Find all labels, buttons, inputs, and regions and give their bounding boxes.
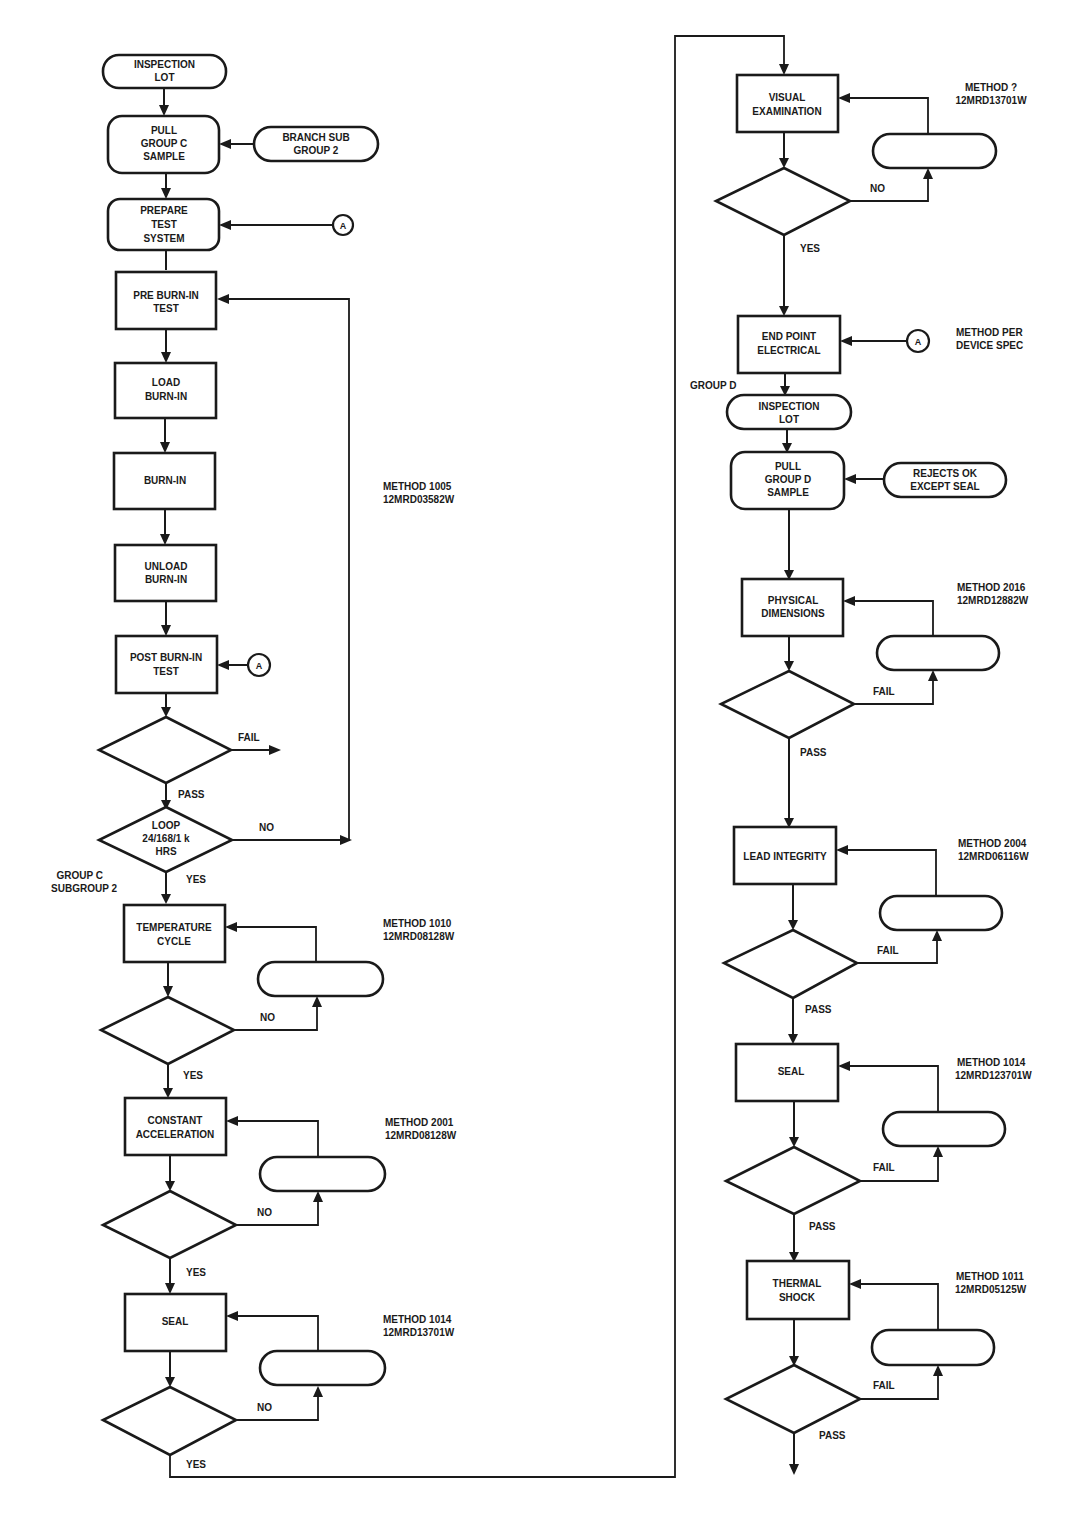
- connector-a-circle: A: [907, 330, 929, 352]
- arrow-left-icon: [838, 93, 850, 103]
- inspection-lot-terminal: INSPECTION LOT: [103, 55, 226, 88]
- pass-label: PASS: [800, 747, 827, 758]
- arrow-up-icon: [933, 1365, 943, 1376]
- connector-a-circle: A: [333, 215, 353, 235]
- no-label: NO: [257, 1207, 272, 1218]
- arrow-down-icon: [161, 894, 171, 904]
- no-label: NO: [257, 1402, 272, 1413]
- svg-text:THERMAL: THERMAL: [773, 1278, 822, 1289]
- rework-terminal: [877, 636, 999, 670]
- rework-terminal: [260, 1157, 385, 1191]
- prepare-line3: SYSTEM: [143, 233, 184, 244]
- rework-terminal: [883, 1112, 1005, 1146]
- phys-dim-method-line1: METHOD 2016: [957, 582, 1026, 593]
- load-burn-in-line1: LOAD: [152, 377, 180, 388]
- pass-label: PASS: [819, 1430, 846, 1441]
- branch-sub-group-line1: BRANCH SUB: [282, 132, 349, 143]
- arrow-down-icon: [788, 1034, 798, 1044]
- fail-label: FAIL: [238, 732, 260, 743]
- thermal-shock-method-line2: 12MRD05125W: [955, 1284, 1027, 1295]
- arrow-left-icon: [219, 139, 231, 149]
- burn-in-method-line1: METHOD 1005: [383, 481, 452, 492]
- pull-group-d-sample-box: PULL GROUP D SAMPLE: [731, 452, 844, 509]
- arrow-down-icon: [161, 352, 171, 363]
- arrow-up-icon: [923, 168, 933, 179]
- arrow-left-icon: [217, 294, 229, 304]
- inspection-lot-line2: LOT: [155, 72, 175, 83]
- seal-method-line1: METHOD 1014: [383, 1314, 452, 1325]
- yes-label: YES: [800, 243, 820, 254]
- fail-label: FAIL: [873, 1380, 895, 1391]
- visual-method-line2: 12MRD13701W: [955, 95, 1027, 106]
- svg-text:REJECTS OK: REJECTS OK: [913, 468, 978, 479]
- thermal-shock-decision: [726, 1365, 860, 1433]
- prepare-line2: TEST: [151, 219, 177, 230]
- phys-dim-method-line2: 12MRD12882W: [957, 595, 1029, 606]
- arrow-left-icon: [843, 596, 855, 606]
- unload-burn-in-box: UNLOAD BURN-IN: [115, 545, 216, 601]
- svg-text:ACCELERATION: ACCELERATION: [136, 1129, 215, 1140]
- unload-burn-in-line2: BURN-IN: [145, 574, 187, 585]
- svg-text:CYCLE: CYCLE: [157, 936, 191, 947]
- post-burn-in-decision: [99, 717, 231, 783]
- loop-yes-label: YES: [186, 874, 206, 885]
- svg-text:LOT: LOT: [779, 414, 799, 425]
- end-point-electrical-box: END POINT ELECTRICAL: [738, 316, 840, 373]
- svg-text:A: A: [340, 221, 347, 231]
- loop-no-label: NO: [259, 822, 274, 833]
- arrow-up-icon: [933, 1146, 943, 1157]
- group-c-label-line1: GROUP C: [57, 870, 104, 881]
- yes-label: YES: [186, 1267, 206, 1278]
- arrow-left-icon: [226, 1311, 238, 1321]
- fail-label: FAIL: [873, 1162, 895, 1173]
- group-c-label-line2: SUBGROUP 2: [51, 883, 117, 894]
- lead-int-method-line1: METHOD 2004: [958, 838, 1027, 849]
- svg-text:A: A: [915, 337, 922, 347]
- flowchart-canvas: INSPECTION LOT PULL GROUP C SAMPLE BRANC…: [0, 0, 1078, 1534]
- thermal-shock-box: THERMAL SHOCK: [747, 1261, 849, 1319]
- lead-int-decision: [724, 930, 857, 998]
- arrow-down-icon: [165, 1181, 175, 1191]
- svg-text:SEAL: SEAL: [778, 1066, 805, 1077]
- svg-text:EXCEPT SEAL: EXCEPT SEAL: [910, 481, 979, 492]
- arrow-left-icon: [219, 220, 231, 230]
- temp-cycle-method-line1: METHOD 1010: [383, 918, 452, 929]
- arrow-left-icon: [844, 474, 856, 484]
- group-d-label: GROUP D: [690, 380, 737, 391]
- pass-label: PASS: [178, 789, 205, 800]
- seal-box-right: SEAL: [736, 1044, 838, 1101]
- pull-group-c-line2: GROUP C: [141, 138, 188, 149]
- arrow-up-icon: [313, 1386, 323, 1397]
- svg-text:LOOP: LOOP: [152, 820, 181, 831]
- loop-back-connector: [220, 299, 349, 840]
- temp-cycle-decision: [101, 997, 234, 1064]
- arrow-up-icon: [932, 930, 942, 941]
- svg-text:END POINT: END POINT: [762, 331, 816, 342]
- constant-acceleration-box: CONSTANT ACCELERATION: [125, 1098, 226, 1155]
- load-burn-in-line2: BURN-IN: [145, 391, 187, 402]
- arrow-left-icon: [836, 845, 848, 855]
- arrow-right-icon: [340, 835, 352, 845]
- arrow-down-icon: [779, 158, 789, 168]
- phys-dim-decision: [721, 671, 854, 738]
- seal-right-decision: [726, 1147, 860, 1214]
- pass-label: PASS: [809, 1221, 836, 1232]
- arrow-down-icon: [789, 1464, 799, 1475]
- rework-terminal: [872, 1330, 994, 1365]
- prepare-line1: PREPARE: [140, 205, 188, 216]
- post-burn-in-line2: TEST: [153, 666, 179, 677]
- arrow-left-icon: [840, 336, 852, 346]
- physical-dimensions-box: PHYSICAL DIMENSIONS: [742, 579, 843, 636]
- arrow-down-icon: [165, 1377, 175, 1387]
- post-burn-in-test-box: POST BURN-IN TEST: [116, 636, 217, 693]
- arrow-down-icon: [159, 105, 169, 116]
- prepare-test-system-box: PREPARE TEST SYSTEM: [108, 199, 219, 250]
- temp-cycle-method-line2: 12MRD08128W: [383, 931, 455, 942]
- arrow-down-icon: [784, 661, 794, 671]
- yes-label: YES: [186, 1459, 206, 1470]
- rework-terminal: [880, 896, 1002, 930]
- const-accel-method-line2: 12MRD08128W: [385, 1130, 457, 1141]
- svg-text:SEAL: SEAL: [162, 1316, 189, 1327]
- column-connector-line: [170, 36, 784, 1477]
- svg-text:VISUAL: VISUAL: [769, 92, 806, 103]
